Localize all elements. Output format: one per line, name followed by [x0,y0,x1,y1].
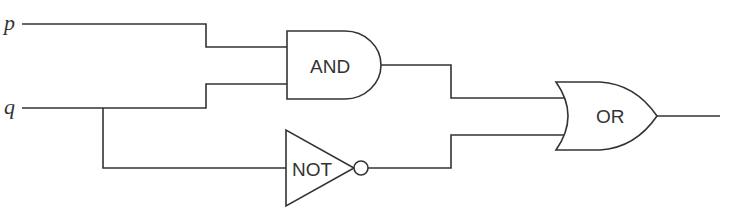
or-gate-label: OR [596,106,625,127]
input-label-p: p [2,10,15,35]
wire-not-to-or [368,135,568,168]
wire-q-to-not [103,108,286,168]
wire-q-to-and [22,84,287,108]
input-label-q: q [4,94,15,119]
not-gate-bubble [354,161,368,175]
wire-and-to-or [381,65,568,98]
not-gate-label: NOT [292,159,333,180]
logic-circuit-diagram: p q AND NOT OR [0,0,730,213]
and-gate-label: AND [310,56,350,77]
wire-p-to-and [22,24,287,47]
